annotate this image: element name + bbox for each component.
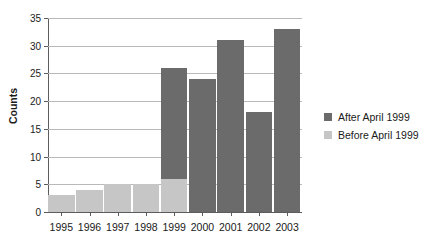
legend-label: Before April 1999 [338, 129, 419, 141]
bar-column[interactable] [48, 18, 75, 212]
bar-segment[interactable] [48, 195, 75, 212]
bar-segment[interactable] [161, 179, 188, 212]
bar-segment[interactable] [104, 184, 131, 212]
legend-swatch-icon [324, 131, 332, 139]
bar-column[interactable] [161, 18, 188, 212]
bar-column[interactable] [104, 18, 131, 212]
y-axis-tick-label: 25 [21, 68, 41, 79]
x-axis-tick-mark [90, 212, 91, 216]
bar-column[interactable] [274, 18, 301, 212]
bar-segment[interactable] [274, 29, 301, 212]
x-axis-tick-label: 1998 [134, 221, 157, 233]
legend-swatch-icon [324, 113, 332, 121]
x-axis-tick-label: 2002 [247, 221, 270, 233]
plot-area: 05101520253035 1995199619971998199920002… [48, 18, 302, 212]
x-axis-tick-mark [118, 212, 119, 216]
x-axis-tick-label: 2000 [191, 221, 214, 233]
y-axis-tick-label: 30 [21, 40, 41, 51]
bar-segment[interactable] [76, 190, 103, 212]
x-axis-tick-mark [61, 212, 62, 216]
x-axis-tick-label: 1997 [106, 221, 129, 233]
legend-item[interactable]: After April 1999 [324, 108, 420, 126]
x-axis-tick-label: 1999 [163, 221, 186, 233]
legend-label: After April 1999 [338, 111, 410, 123]
bar-column[interactable] [246, 18, 273, 212]
bar-column[interactable] [133, 18, 160, 212]
y-axis-tick-label: 0 [21, 207, 41, 218]
x-axis-tick-label: 2003 [275, 221, 298, 233]
y-axis-tick-label: 20 [21, 96, 41, 107]
bar-column[interactable] [76, 18, 103, 212]
x-axis-tick-label: 2001 [219, 221, 242, 233]
x-axis-tick-mark [259, 212, 260, 216]
x-axis-tick-mark [146, 212, 147, 216]
bar-chart-figure: Counts 05101520253035 199519961997199819… [0, 0, 421, 246]
bar-segment[interactable] [161, 68, 188, 179]
bar-column[interactable] [217, 18, 244, 212]
x-axis-tick-mark [174, 212, 175, 216]
y-axis-tick-mark [44, 212, 48, 213]
bar-segment[interactable] [246, 112, 273, 212]
x-axis-tick-label: 1996 [78, 221, 101, 233]
legend: After April 1999Before April 1999 [324, 108, 420, 144]
x-axis-tick-mark [287, 212, 288, 216]
x-axis-tick-mark [231, 212, 232, 216]
bar-segment[interactable] [133, 184, 160, 212]
y-axis-tick-label: 5 [21, 179, 41, 190]
bar-segment[interactable] [217, 40, 244, 212]
bar-segment[interactable] [189, 79, 216, 212]
y-axis-tick-label: 10 [21, 151, 41, 162]
legend-item[interactable]: Before April 1999 [324, 126, 420, 144]
x-axis-tick-label: 1995 [50, 221, 73, 233]
bar-column[interactable] [189, 18, 216, 212]
y-axis-title: Counts [7, 76, 19, 136]
y-axis-tick-label: 15 [21, 123, 41, 134]
y-axis-tick-label: 35 [21, 13, 41, 24]
x-axis-tick-mark [202, 212, 203, 216]
